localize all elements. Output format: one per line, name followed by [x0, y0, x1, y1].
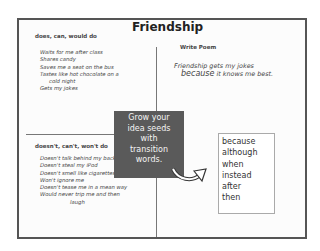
transition-word: when	[222, 159, 274, 170]
list-item: Would never trip me and then	[40, 191, 127, 198]
transition-words-box: because although when instead after then	[218, 133, 275, 214]
organizer-title: Friendship	[132, 20, 203, 34]
callout-line: with	[114, 134, 184, 145]
list-item: Saves me a seat on the bus	[40, 64, 119, 71]
list-item: Tastes like hot chocolate on a	[40, 71, 119, 78]
quadrant-heading-doesnt: doesn't, can't, won't do	[35, 143, 108, 149]
does-list: Waits for me after class Shares candy Sa…	[40, 49, 119, 93]
transition-word: because	[222, 136, 274, 147]
list-item: cold night	[40, 78, 119, 85]
quadrant-heading-does: does, can, would do	[35, 33, 97, 39]
list-item: laugh	[40, 199, 127, 206]
transition-word: after	[222, 181, 274, 192]
callout-line: Grow your	[114, 113, 184, 124]
list-item: Gets my jokes	[40, 85, 119, 92]
callout-line: transition	[114, 145, 184, 156]
transition-word: instead	[222, 170, 274, 181]
callout-line: words.	[114, 155, 184, 166]
curved-arrow-icon	[170, 166, 210, 186]
poem-connector: because	[181, 69, 214, 78]
callout-line: idea seeds	[114, 124, 184, 135]
quadrant-heading-write-poem: Write Poem	[180, 44, 216, 50]
list-item: Doesn't tease me in a mean way	[40, 184, 127, 191]
list-item: Shares candy	[40, 56, 119, 63]
poem-line-2-rest: it knows me best.	[214, 70, 273, 78]
transition-word: although	[222, 147, 274, 158]
list-item: Waits for me after class	[40, 49, 119, 56]
transition-word: then	[222, 192, 274, 203]
poem-text: Friendship gets my jokes because it know…	[174, 62, 273, 78]
poem-line-2: because it knows me best.	[174, 70, 273, 78]
